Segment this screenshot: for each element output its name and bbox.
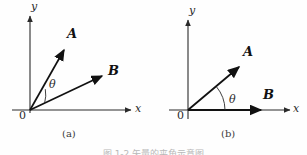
y-axis-label: y [189,5,195,16]
x-axis-label: x [293,103,299,114]
vector-a-label: A [67,27,77,40]
angle-arc [45,89,46,103]
angle-theta-label: θ [229,94,236,105]
vector-a-arrow [30,50,64,110]
figure-caption-clipped: 图 1-2 矢量的夹角示意图 [0,147,307,155]
origin-label: 0 [19,110,26,121]
x-axis-label: x [135,103,141,114]
panel-a-drawing [0,0,153,155]
y-axis-label: y [31,1,37,12]
vector-b-label: B [263,88,274,101]
vector-b-arrow [30,76,102,110]
origin-label: 0 [177,110,184,121]
panel-b-caption: (b) [221,129,235,139]
panel-a: y x 0 A B θ (a) [0,0,153,155]
panel-b: y x 0 A B θ (b) [153,0,306,155]
angle-arc [216,87,225,110]
vector-angle-figure: y x 0 A B θ (a) [0,0,307,155]
angle-theta-label: θ [49,79,56,90]
vector-a-label: A [243,45,253,58]
vector-b-label: B [108,64,119,77]
panel-a-caption: (a) [62,129,76,139]
